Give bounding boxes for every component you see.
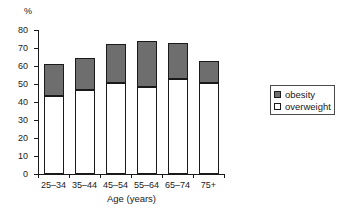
bar-25-34[interactable]	[44, 64, 64, 174]
y-axis-tick	[34, 48, 38, 49]
y-axis-tick	[34, 120, 38, 121]
x-axis-tick	[38, 174, 39, 178]
bar-55-64[interactable]	[137, 41, 157, 174]
bar-35-44[interactable]	[75, 58, 95, 174]
y-axis-line	[38, 30, 39, 174]
bar-segment-obesity[interactable]	[75, 58, 95, 90]
chart-container: % 01020304050607080 25–3435–4445–5455–64…	[0, 0, 349, 219]
x-axis-tick	[162, 174, 163, 178]
x-axis-tick-label: 35–44	[72, 180, 97, 190]
bar-segment-obesity[interactable]	[199, 61, 219, 84]
x-axis-tick-label: 65–74	[165, 180, 190, 190]
y-axis-tick	[34, 156, 38, 157]
bar-segment-obesity[interactable]	[168, 43, 188, 79]
y-axis-tick	[34, 30, 38, 31]
legend-swatch-overweight-icon	[274, 103, 281, 110]
x-axis-tick	[100, 174, 101, 178]
x-axis-tick-label: 25–34	[41, 180, 66, 190]
bar-segment-obesity[interactable]	[44, 64, 64, 96]
y-axis-tick	[34, 84, 38, 85]
bar-segment-overweight[interactable]	[137, 87, 157, 174]
y-axis-tick-label: 40	[18, 98, 28, 107]
bar-segment-obesity[interactable]	[137, 41, 157, 87]
x-axis-title: Age (years)	[38, 193, 225, 204]
chart-legend: obesity overweight	[270, 85, 335, 115]
bar-segment-obesity[interactable]	[106, 44, 126, 83]
bar-segment-overweight[interactable]	[106, 83, 126, 174]
legend-item-obesity[interactable]: obesity	[274, 88, 331, 100]
bar-segment-overweight[interactable]	[168, 79, 188, 174]
x-axis-tick	[69, 174, 70, 178]
y-axis-tick-label: 60	[18, 62, 28, 71]
x-axis-tick	[224, 174, 225, 178]
y-axis-tick-label: 80	[18, 26, 28, 35]
bar-75+[interactable]	[199, 61, 219, 174]
legend-label-obesity: obesity	[285, 89, 315, 100]
x-axis-tick-label: 45–54	[103, 180, 128, 190]
legend-label-overweight: overweight	[285, 101, 331, 112]
y-axis-tick-label: 10	[18, 152, 28, 161]
legend-swatch-obesity-icon	[274, 91, 281, 98]
y-axis-tick-label: 70	[18, 44, 28, 53]
y-axis-tick	[34, 102, 38, 103]
bar-65-74[interactable]	[168, 43, 188, 174]
y-axis-tick-label: 50	[18, 80, 28, 89]
y-axis-unit-label: %	[24, 6, 32, 16]
y-axis-tick	[34, 138, 38, 139]
legend-item-overweight[interactable]: overweight	[274, 100, 331, 112]
y-axis-tick-label: 30	[18, 116, 28, 125]
y-axis-tick-label: 20	[18, 134, 28, 143]
y-axis-tick	[34, 66, 38, 67]
x-axis-tick	[193, 174, 194, 178]
x-axis-tick-label: 55–64	[134, 180, 159, 190]
x-axis-tick	[131, 174, 132, 178]
bar-segment-overweight[interactable]	[199, 83, 219, 174]
plot-area: 01020304050607080 25–3435–4445–5455–6465…	[38, 30, 224, 174]
x-axis-tick-label: 75+	[201, 180, 216, 190]
bar-segment-overweight[interactable]	[75, 90, 95, 174]
bar-45-54[interactable]	[106, 44, 126, 174]
y-axis-tick-label: 0	[23, 170, 28, 179]
bar-segment-overweight[interactable]	[44, 96, 64, 174]
